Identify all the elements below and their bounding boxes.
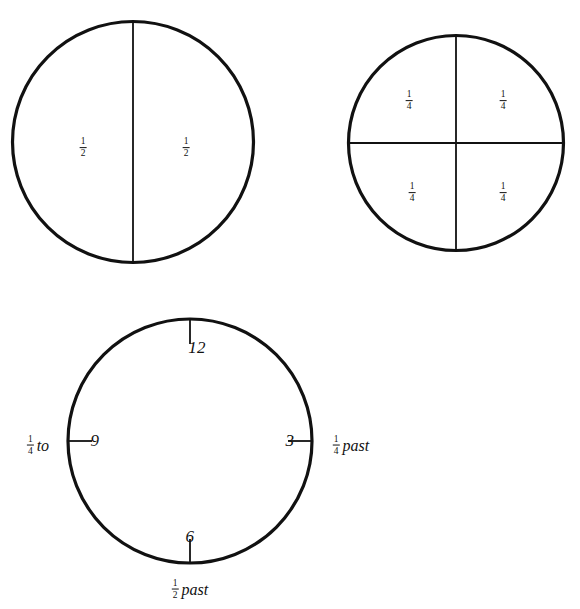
fraction-denominator: 4: [406, 101, 413, 111]
fraction-denominator: 4: [500, 193, 507, 203]
clock-number-3: 3: [286, 431, 295, 451]
fraction-numerator: 1: [27, 435, 34, 446]
fraction-numerator: 1: [500, 182, 507, 193]
quarter-label-bottom-right: 1 4: [500, 172, 507, 204]
half-past-label: 1 2 past: [172, 572, 208, 601]
fraction-denominator: 2: [183, 148, 190, 158]
fraction-denominator: 2: [80, 148, 87, 158]
figure-root: 1 2 1 2 1 4 1 4 1 4 1 4 12 3 6: [0, 0, 580, 609]
quarter-circle-group: [348, 34, 564, 252]
fraction-numerator: 1: [80, 137, 87, 148]
clock-number-9: 9: [91, 431, 100, 451]
diagram-canvas: [0, 0, 580, 609]
quarter-past-label: 1 4 past: [333, 428, 369, 457]
half-label-right: 1 2: [183, 127, 190, 159]
fraction-numerator: 1: [172, 579, 179, 590]
half-label-left: 1 2: [80, 127, 87, 159]
clock-number-6: 6: [186, 527, 195, 547]
quarter-label-top-right: 1 4: [500, 80, 507, 112]
quarter-label-top-left: 1 4: [406, 80, 413, 112]
fraction-numerator: 1: [333, 435, 340, 446]
annotation-word: past: [182, 581, 209, 599]
clock-number-12: 12: [188, 338, 206, 358]
fraction-denominator: 4: [409, 193, 416, 203]
annotation-word: past: [343, 437, 370, 455]
fraction-denominator: 4: [500, 101, 507, 111]
quarter-label-bottom-left: 1 4: [409, 172, 416, 204]
fraction-numerator: 1: [406, 90, 413, 101]
fraction-numerator: 1: [500, 90, 507, 101]
annotation-word: to: [37, 437, 49, 455]
fraction-numerator: 1: [183, 137, 190, 148]
fraction-denominator: 4: [27, 446, 34, 456]
quarter-to-label: 1 4 to: [27, 428, 49, 457]
fraction-denominator: 2: [172, 590, 179, 600]
half-circle-group: [13, 22, 254, 263]
fraction-denominator: 4: [333, 446, 340, 456]
fraction-numerator: 1: [409, 182, 416, 193]
